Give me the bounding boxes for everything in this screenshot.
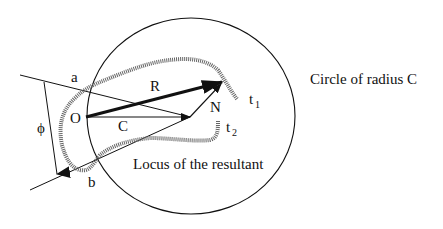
caption-locus: Locus of the resultant — [133, 156, 264, 172]
label-n: N — [210, 99, 221, 115]
label-t2-sub: 2 — [232, 127, 237, 138]
caption-circle: Circle of radius C — [310, 71, 417, 87]
label-o: O — [70, 110, 81, 126]
label-phi: ϕ — [37, 120, 45, 136]
resultant-locus-diagram: a b O C R N ϕ t 1 t 2 Circle of radius C… — [0, 0, 443, 229]
label-t1: t — [249, 91, 254, 107]
label-a: a — [71, 69, 78, 85]
phi-arrow — [44, 82, 57, 174]
label-c: C — [118, 118, 128, 134]
label-r: R — [150, 78, 160, 94]
label-t2: t — [226, 119, 231, 135]
label-b: b — [88, 174, 96, 190]
label-t1-sub: 1 — [255, 99, 260, 110]
